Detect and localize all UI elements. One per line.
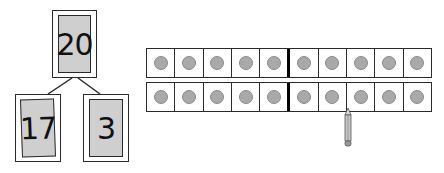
frame-cell	[319, 83, 347, 111]
counter-dot	[297, 56, 311, 70]
part-card-right: 3	[83, 94, 129, 162]
frame-cell	[347, 83, 375, 111]
frame-cell	[260, 49, 290, 77]
counter-dot	[154, 90, 168, 104]
frame-cell	[204, 49, 232, 77]
counter-dot	[239, 56, 253, 70]
frame-cell	[147, 83, 175, 111]
ten-frame-row-1	[146, 48, 432, 78]
counter-dot	[325, 56, 339, 70]
counter-dot	[410, 90, 424, 104]
counter-dot	[325, 90, 339, 104]
frame-cell	[175, 83, 203, 111]
pencil-icon	[343, 108, 353, 148]
frame-cell	[147, 49, 175, 77]
frame-cell	[232, 49, 260, 77]
counter-dot	[267, 90, 281, 104]
frame-cell	[404, 83, 431, 111]
counter-dot	[410, 56, 424, 70]
counter-dot	[210, 56, 224, 70]
frame-cell	[290, 83, 318, 111]
counter-dot	[354, 56, 368, 70]
counter-dot	[210, 90, 224, 104]
frame-cell	[375, 83, 403, 111]
counter-dot	[382, 90, 396, 104]
part-card-left: 17	[15, 94, 61, 162]
frame-cell	[290, 49, 318, 77]
counter-dot	[267, 56, 281, 70]
frame-cell	[347, 49, 375, 77]
counter-dot	[382, 56, 396, 70]
counter-dot	[182, 90, 196, 104]
frame-cell	[404, 49, 431, 77]
whole-card: 20	[52, 10, 97, 78]
part-value-right: 3	[89, 99, 123, 157]
counter-dot	[182, 56, 196, 70]
frame-cell	[204, 83, 232, 111]
counter-dot	[154, 56, 168, 70]
ten-frame-row-2	[146, 82, 432, 112]
counter-dot	[239, 90, 253, 104]
counter-dot	[297, 90, 311, 104]
counter-dot	[354, 90, 368, 104]
frame-cell	[232, 83, 260, 111]
part-value-left: 17	[20, 98, 56, 157]
frame-cell	[375, 49, 403, 77]
frame-cell	[319, 49, 347, 77]
frame-cell	[175, 49, 203, 77]
frame-cell	[260, 83, 290, 111]
whole-value: 20	[58, 15, 91, 73]
